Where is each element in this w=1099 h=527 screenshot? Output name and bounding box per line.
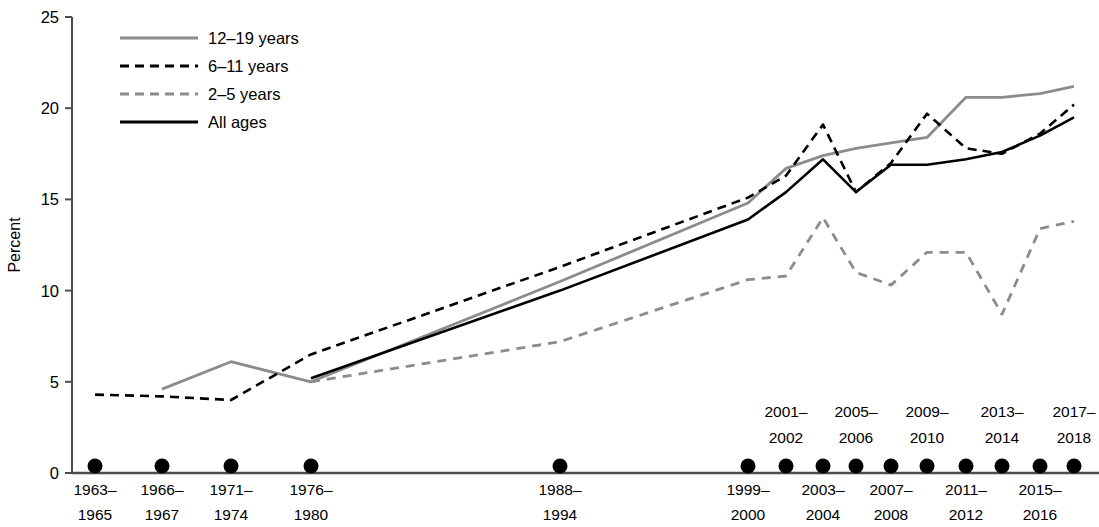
x-tick-label-line1: 2011– xyxy=(945,481,987,498)
x-tick-label-line2: 1980 xyxy=(294,506,329,523)
y-tick-label: 20 xyxy=(41,99,59,117)
x-tick-label-group: 2013–2014 xyxy=(980,403,1023,446)
x-tick-label-group: 1971–1974 xyxy=(209,481,252,523)
x-tick-label-line1: 1963– xyxy=(73,481,116,498)
legend-label-3: All ages xyxy=(208,113,267,131)
axis-marker-dot xyxy=(1067,459,1082,474)
axis-marker-dot xyxy=(884,459,899,474)
x-tick-label-line1: 2009– xyxy=(905,403,948,420)
x-tick-label-group: 2003–2004 xyxy=(801,481,844,523)
x-tick-label-line1: 1988– xyxy=(538,481,581,498)
x-tick-label-group: 2017–2018 xyxy=(1052,403,1095,446)
x-tick-label-group: 2005–2006 xyxy=(834,403,877,446)
legend-label-1: 6–11 years xyxy=(208,57,288,75)
axis-marker-dot xyxy=(88,459,103,474)
axis-marker-dot xyxy=(1033,459,1048,474)
x-tick-label-group: 1966–1967 xyxy=(140,481,183,523)
series-line-3 xyxy=(311,117,1074,378)
x-tick-label-line1: 1971– xyxy=(209,481,252,498)
y-tick-label: 5 xyxy=(50,373,59,391)
axis-marker-dot xyxy=(553,459,568,474)
x-tick-label-line1: 2017– xyxy=(1052,403,1095,420)
x-tick-label-line1: 2013– xyxy=(980,403,1023,420)
chart-figure: 0510152025 1963–19651966–19671971–197419… xyxy=(0,0,1099,527)
x-tick-label-group: 2011–2012 xyxy=(945,481,987,523)
axis-marker-dot xyxy=(849,459,864,474)
axis-marker-dot xyxy=(155,459,170,474)
x-tick-label-line2: 2006 xyxy=(839,429,873,446)
y-axis-title: Percent xyxy=(6,217,23,273)
x-tick-label-group: 2001–2002 xyxy=(764,403,807,446)
x-tick-label-line2: 2010 xyxy=(910,429,945,446)
x-tick-label-line2: 2004 xyxy=(806,506,841,523)
x-tick-label-line2: 2018 xyxy=(1057,429,1091,446)
axis-marker-dot xyxy=(741,459,756,474)
x-axis-marker-dots xyxy=(88,459,1082,474)
x-tick-label-group: 2009–2010 xyxy=(905,403,948,446)
y-tick-label: 10 xyxy=(41,282,59,300)
axis-marker-dot xyxy=(224,459,239,474)
x-tick-label-group: 1988–1994 xyxy=(538,481,581,523)
line-chart-canvas: 0510152025 1963–19651966–19671971–197419… xyxy=(0,0,1099,527)
x-tick-label-line2: 2002 xyxy=(769,429,803,446)
axis-marker-dot xyxy=(995,459,1010,474)
axis-marker-dot xyxy=(959,459,974,474)
x-tick-label-line1: 2005– xyxy=(834,403,877,420)
axis-marker-dot xyxy=(779,459,794,474)
legend-label-2: 2–5 years xyxy=(208,85,280,103)
series-line-2 xyxy=(311,218,1074,382)
y-tick-label: 0 xyxy=(50,464,59,482)
chart-legend: 12–19 years6–11 years2–5 yearsAll ages xyxy=(120,29,299,131)
x-tick-label-line2: 2012 xyxy=(949,506,983,523)
x-tick-label-group: 1999–2000 xyxy=(726,481,769,523)
axis-marker-dot xyxy=(816,459,831,474)
y-axis: 0510152025 xyxy=(41,8,72,482)
x-tick-label-line2: 2000 xyxy=(731,506,766,523)
axis-marker-dot xyxy=(304,459,319,474)
y-tick-label: 15 xyxy=(41,190,59,208)
x-tick-label-line2: 2008 xyxy=(874,506,908,523)
data-series-group xyxy=(95,86,1074,400)
x-tick-label-line2: 1994 xyxy=(543,506,578,523)
x-tick-label-line2: 2016 xyxy=(1023,506,1057,523)
legend-label-0: 12–19 years xyxy=(208,29,299,47)
x-tick-label-line1: 1966– xyxy=(140,481,183,498)
x-tick-label-group: 2007–2008 xyxy=(869,481,912,523)
x-tick-label-line1: 2001– xyxy=(764,403,807,420)
x-tick-label-group: 1976–1980 xyxy=(289,481,332,523)
y-tick-label: 25 xyxy=(41,8,59,26)
series-line-0 xyxy=(162,86,1074,389)
x-tick-label-line2: 1967 xyxy=(145,506,179,523)
x-tick-label-line1: 2015– xyxy=(1018,481,1061,498)
x-tick-label-line2: 2014 xyxy=(985,429,1020,446)
x-tick-label-line1: 1999– xyxy=(726,481,769,498)
x-tick-label-group: 1963–1965 xyxy=(73,481,116,523)
x-tick-label-line2: 1974 xyxy=(214,506,249,523)
y-axis-title-text: Percent xyxy=(6,217,23,273)
x-tick-label-line1: 2003– xyxy=(801,481,844,498)
x-tick-label-line1: 1976– xyxy=(289,481,332,498)
x-tick-label-line2: 1965 xyxy=(78,506,112,523)
axis-marker-dot xyxy=(920,459,935,474)
x-tick-label-line1: 2007– xyxy=(869,481,912,498)
x-tick-label-group: 2015–2016 xyxy=(1018,481,1061,523)
